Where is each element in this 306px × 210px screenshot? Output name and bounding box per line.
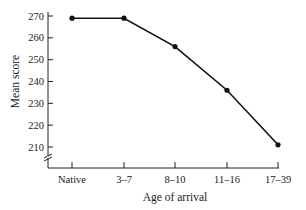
- data-point: [69, 16, 74, 21]
- series-line: [72, 18, 278, 145]
- y-tick-label: 260: [28, 32, 44, 43]
- axis-break-gap: [47, 157, 49, 159]
- x-tick-label: 11–16: [214, 174, 240, 185]
- y-axis-ticks: 210220230240250260270: [28, 11, 53, 153]
- data-point: [121, 16, 126, 21]
- x-tick-label: 3–7: [116, 174, 132, 185]
- data-point: [275, 142, 280, 147]
- series-group: [69, 16, 280, 148]
- x-tick-label: Native: [58, 174, 86, 185]
- data-point: [224, 88, 229, 93]
- y-tick-label: 250: [28, 54, 44, 65]
- x-axis-title: Age of arrival: [143, 191, 208, 204]
- x-tick-label: 8–10: [165, 174, 186, 185]
- data-point: [172, 44, 177, 49]
- y-tick-label: 270: [28, 11, 44, 22]
- y-tick-label: 220: [28, 120, 44, 131]
- x-tick-label: 17–39: [265, 174, 291, 185]
- x-axis-ticks: Native3–78–1011–1617–39: [58, 162, 291, 185]
- axes: [44, 12, 279, 168]
- y-axis-title: Mean score: [9, 55, 21, 108]
- y-tick-label: 230: [28, 98, 44, 109]
- y-tick-label: 210: [28, 142, 44, 153]
- line-chart: 210220230240250260270 Native3–78–1011–16…: [0, 0, 306, 210]
- y-tick-label: 240: [28, 76, 44, 87]
